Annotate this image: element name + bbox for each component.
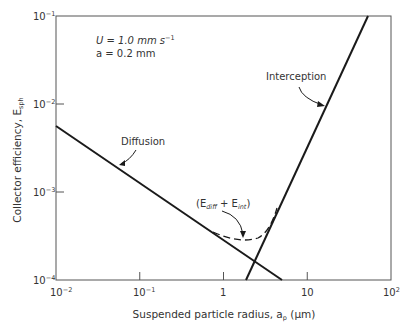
svg-text:10: 10: [301, 287, 314, 298]
diffusion-arrowhead-icon: [119, 160, 125, 166]
x-ticks: [140, 272, 308, 280]
combined-label: (Ediff + Eint): [196, 198, 250, 211]
svg-text:10−2: 10−2: [33, 98, 55, 110]
combined-arrowhead-icon: [240, 231, 246, 238]
interception-line: [246, 16, 368, 280]
diffusion-label: Diffusion: [121, 136, 165, 147]
svg-text:10−3: 10−3: [33, 186, 55, 198]
efficiency-chart: 10−2 10−1 1 10 102 10−1 10−2 10−3 10−4 S…: [0, 0, 408, 326]
svg-text:U = 1.0 mm s−1: U = 1.0 mm s−1: [96, 34, 175, 46]
interception-arrowhead-icon: [317, 101, 325, 107]
x-axis-title: Suspended particle radius, ap (µm): [133, 308, 316, 322]
svg-text:10−4: 10−4: [33, 274, 55, 286]
interception-label: Interception: [266, 71, 326, 82]
combined-arrow: [222, 211, 243, 234]
y-ticks: [56, 104, 64, 192]
svg-text:10−1: 10−1: [133, 286, 155, 298]
svg-text:10−1: 10−1: [33, 10, 55, 22]
svg-text:102: 102: [383, 286, 400, 298]
y-tick-labels: 10−1 10−2 10−3 10−4: [33, 10, 55, 286]
x-tick-labels: 10−2 10−1 1 10 102: [50, 286, 400, 298]
parameter-text: U = 1.0 mm s−1 a = 0.2 mm: [96, 34, 175, 59]
svg-text:a = 0.2 mm: a = 0.2 mm: [96, 48, 155, 59]
y-axis-title: Collector efficiency, Esph: [11, 97, 25, 222]
svg-text:10−2: 10−2: [50, 286, 72, 298]
svg-text:1: 1: [220, 287, 226, 298]
